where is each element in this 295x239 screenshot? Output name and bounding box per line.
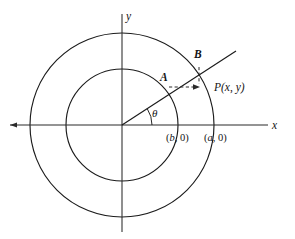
inner-intercept-label: (b, 0) [166, 132, 189, 144]
y-axis-label: y [125, 10, 132, 23]
outer-intercept-label: (a, 0) [204, 132, 227, 144]
point-b-label: B [193, 48, 202, 60]
x-axis-left-arrowhead [10, 122, 17, 127]
outer-intercept-rest: , 0) [213, 132, 228, 144]
point-a-label: A [159, 71, 168, 83]
inner-intercept-rest: , 0) [175, 132, 190, 144]
point-p-suffix: ) [240, 81, 245, 94]
theta-label: θ [152, 107, 158, 119]
geometry-svg: y x θ A B P(x, y) (b, 0) (a, 0) [0, 0, 295, 239]
point-p-label: P(x, y) [213, 81, 245, 94]
x-axis-label: x [271, 119, 278, 131]
point-p-arrowhead [193, 84, 200, 90]
figure-canvas: y x θ A B P(x, y) (b, 0) (a, 0) [0, 0, 295, 239]
